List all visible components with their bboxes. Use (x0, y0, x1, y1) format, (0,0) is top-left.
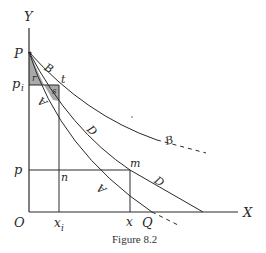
curve-b-dashed (157, 140, 206, 153)
y-axis-label: Y (24, 9, 34, 24)
region-s-label: s (52, 86, 57, 96)
point-p-label: P (13, 46, 23, 61)
curve-b-end-label: B (163, 133, 175, 148)
x-i-subscript: i (61, 223, 64, 233)
curve-d-end-label: D (151, 173, 167, 189)
point-n-label: n (61, 171, 68, 184)
figure-8-2-diagram: Y X O P p i t p n m x i x Q B B D D A A … (0, 0, 266, 253)
point-q-label: Q (142, 215, 153, 230)
point-p-dot (28, 51, 31, 54)
p-label: p (14, 162, 23, 177)
x-label: x (126, 215, 133, 229)
point-m-label: m (130, 157, 140, 170)
origin-label: O (14, 215, 25, 230)
stray-dot (131, 116, 133, 118)
curve-d (29, 52, 203, 212)
p-i-label: p (12, 76, 21, 91)
x-i-label: x (54, 216, 61, 230)
point-t-label: t (61, 73, 66, 86)
x-axis-label: X (242, 205, 253, 220)
region-r-label: r (32, 73, 37, 83)
curve-a-end-label: A (94, 181, 109, 197)
curve-a-label: A (35, 94, 50, 110)
figure-caption: Figure 8.2 (112, 233, 157, 245)
curve-d-label: D (84, 122, 100, 138)
p-i-subscript: i (21, 83, 24, 93)
curve-b-label: B (41, 60, 55, 76)
curve-a-dashed (152, 212, 180, 226)
